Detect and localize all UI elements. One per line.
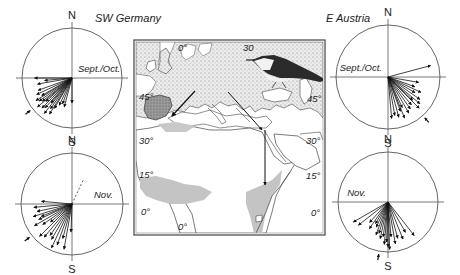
- lat-label-left-30: 30°: [139, 135, 154, 146]
- lat-label-right-30: 30°: [306, 135, 321, 146]
- heading-vector: [52, 204, 72, 248]
- mean-direction-marker: [25, 237, 30, 241]
- lon-label-bottom-0: 0°: [178, 221, 187, 232]
- outlier-vector: [72, 179, 84, 204]
- north-label: N: [384, 133, 392, 145]
- migration-figure: SW Germany E Austria NSSept./Oct.NSNov.N…: [0, 0, 460, 275]
- lat-label-right-45: 45°: [307, 93, 322, 104]
- north-label: N: [68, 134, 76, 146]
- south-label: S: [384, 260, 391, 272]
- heading-vector: [388, 202, 414, 235]
- lon-label-top-30: 30: [243, 42, 254, 53]
- mean-direction-marker: [26, 111, 31, 115]
- mean-direction-marker: [425, 118, 429, 122]
- lon-label-top-0: 0°: [178, 42, 187, 53]
- heading-vector: [388, 202, 403, 239]
- lat-label-left-45: 45°: [139, 91, 154, 102]
- lat-label-right-15: 15°: [306, 170, 321, 181]
- circular-plot-sw-germany-septoct: NSSept./Oct.: [16, 9, 128, 148]
- period-label: Nov.: [347, 187, 366, 198]
- period-label: Sept./Oct.: [78, 63, 120, 74]
- circular-plot-e-austria-septoct: NSSept./Oct.: [330, 6, 446, 149]
- circular-plot-e-austria-nov: NSNov.: [332, 133, 444, 272]
- lat-label-right-0: 0°: [311, 207, 320, 218]
- north-label: N: [68, 9, 76, 21]
- region-title-sw-germany: SW Germany: [95, 12, 163, 24]
- period-label: Sept./Oct.: [340, 62, 382, 73]
- mean-direction-marker: [378, 254, 379, 260]
- map-panel: 45° 30° 15° 0° 45° 30° 15° 0° 0° 30 0°: [134, 40, 326, 235]
- lat-label-left-15: 15°: [139, 169, 154, 180]
- region-title-e-austria: E Austria: [326, 12, 370, 24]
- lat-label-left-0: 0°: [141, 206, 150, 217]
- circular-plot-sw-germany-nov: NSNov.: [15, 134, 129, 275]
- north-label: N: [384, 6, 392, 18]
- heading-vector: [42, 201, 72, 204]
- heading-vector: [388, 66, 431, 77]
- period-label: Nov.: [94, 189, 113, 200]
- south-label: S: [68, 263, 75, 275]
